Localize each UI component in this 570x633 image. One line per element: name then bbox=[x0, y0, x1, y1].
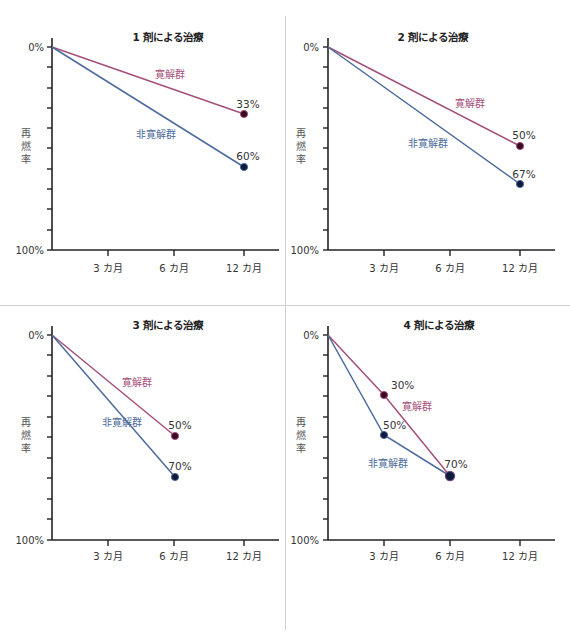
y-axis-label-char: 再 bbox=[21, 128, 31, 139]
chart-title: 4 剤による治療 bbox=[404, 319, 476, 331]
non-remission-label: 非寛解群 bbox=[102, 416, 142, 428]
remission-value: 50% bbox=[512, 129, 535, 141]
non-remission-point bbox=[240, 163, 247, 170]
y-axis-label-char: 燃 bbox=[21, 140, 31, 152]
chart-panel-2-drugs: 2 剤による治療 0% 100% 再 燃 率 3 カ月 6 カ月 12 カ月 5… bbox=[285, 0, 570, 300]
shared-value-6m: 70% bbox=[444, 458, 467, 470]
remission-value: 33% bbox=[236, 98, 259, 110]
y-tick-label-100: 100% bbox=[15, 535, 44, 546]
remission-label: 寛解群 bbox=[155, 68, 185, 80]
y-axis-label-char: 率 bbox=[296, 442, 306, 454]
non-remission-label: 非寛解群 bbox=[368, 457, 408, 469]
non-remission-label: 非寛解群 bbox=[408, 137, 448, 149]
x-tick-label-12m: 12 カ月 bbox=[502, 263, 538, 274]
non-remission-point bbox=[516, 180, 523, 187]
remission-label: 寛解群 bbox=[402, 400, 432, 412]
chart-4-svg: 4 剤による治療 0% 100% 再 燃 率 3 カ月 6 カ月 12 カ月 3… bbox=[285, 300, 570, 600]
x-tick-label-12m: 12 カ月 bbox=[226, 263, 262, 274]
x-tick-label-3m: 3 カ月 bbox=[369, 263, 399, 274]
non-remission-value: 60% bbox=[236, 150, 259, 162]
x-ticks bbox=[108, 250, 244, 256]
x-tick-label-3m: 3 カ月 bbox=[93, 551, 123, 562]
remission-label: 寛解群 bbox=[455, 97, 485, 109]
non-remission-value: 67% bbox=[512, 168, 535, 180]
remission-value: 50% bbox=[168, 419, 191, 431]
x-tick-label-6m: 6 カ月 bbox=[159, 263, 189, 274]
y-tick-label-0: 0% bbox=[28, 42, 44, 53]
y-axis-label-char: 再 bbox=[21, 417, 31, 428]
y-axis-label-char: 率 bbox=[296, 153, 306, 165]
remission-point-3m bbox=[380, 391, 387, 398]
x-tick-label-6m: 6 カ月 bbox=[159, 551, 189, 562]
y-tick-label-100: 100% bbox=[15, 245, 44, 256]
chart-title: 3 剤による治療 bbox=[133, 319, 205, 331]
shared-point-6m bbox=[445, 471, 454, 480]
chart-panel-1-drug: 1 剤による治療 0% 100% 再 燃 率 3 カ月 6 カ月 12 カ月 3… bbox=[0, 0, 285, 300]
chart-panel-4-drugs: 4 剤による治療 0% 100% 再 燃 率 3 カ月 6 カ月 12 カ月 3… bbox=[285, 300, 570, 600]
y-axis-label-char: 燃 bbox=[296, 429, 306, 441]
x-ticks bbox=[108, 540, 244, 546]
y-tick-label-0: 0% bbox=[28, 330, 44, 341]
chart-title: 1 剤による治療 bbox=[133, 31, 205, 43]
remission-point bbox=[516, 142, 523, 149]
y-axis-label-char: 再 bbox=[296, 128, 306, 139]
non-remission-value: 70% bbox=[168, 460, 191, 472]
y-axis-label-char: 燃 bbox=[296, 140, 306, 152]
non-remission-line bbox=[52, 335, 175, 477]
non-remission-point bbox=[171, 473, 178, 480]
remission-line bbox=[52, 47, 244, 114]
x-tick-label-6m: 6 カ月 bbox=[435, 263, 465, 274]
non-remission-value-3m: 50% bbox=[383, 419, 406, 431]
y-tick-label-0: 0% bbox=[303, 330, 319, 341]
chart-3-svg: 3 剤による治療 0% 100% 再 燃 率 3 カ月 6 カ月 12 カ月 5… bbox=[0, 300, 285, 600]
x-tick-label-3m: 3 カ月 bbox=[369, 551, 399, 562]
non-remission-label: 非寛解群 bbox=[136, 128, 176, 140]
remission-label: 寛解群 bbox=[122, 376, 152, 388]
chart-2-svg: 2 剤による治療 0% 100% 再 燃 率 3 カ月 6 カ月 12 カ月 5… bbox=[285, 0, 570, 300]
x-tick-label-12m: 12 カ月 bbox=[226, 551, 262, 562]
y-axis-label-char: 率 bbox=[21, 442, 31, 454]
remission-value-3m: 30% bbox=[391, 379, 414, 391]
y-axis-label-char: 再 bbox=[296, 417, 306, 428]
remission-point bbox=[240, 110, 247, 117]
x-tick-label-12m: 12 カ月 bbox=[502, 551, 538, 562]
non-remission-point-3m bbox=[380, 431, 387, 438]
chart-panel-3-drugs: 3 剤による治療 0% 100% 再 燃 率 3 カ月 6 カ月 12 カ月 5… bbox=[0, 300, 285, 600]
x-ticks bbox=[384, 250, 520, 256]
non-remission-line bbox=[52, 47, 244, 167]
remission-line bbox=[328, 47, 520, 146]
chart-title: 2 剤による治療 bbox=[398, 31, 470, 43]
x-ticks bbox=[384, 540, 520, 546]
y-tick-label-0: 0% bbox=[303, 42, 319, 53]
y-axis-label-char: 率 bbox=[21, 153, 31, 165]
y-tick-label-100: 100% bbox=[290, 535, 319, 546]
remission-point bbox=[171, 432, 178, 439]
y-tick-label-100: 100% bbox=[290, 245, 319, 256]
chart-1-svg: 1 剤による治療 0% 100% 再 燃 率 3 カ月 6 カ月 12 カ月 3… bbox=[0, 0, 285, 300]
x-tick-label-6m: 6 カ月 bbox=[435, 551, 465, 562]
y-axis-label-char: 燃 bbox=[21, 429, 31, 441]
x-tick-label-3m: 3 カ月 bbox=[93, 263, 123, 274]
non-remission-line bbox=[328, 47, 520, 184]
